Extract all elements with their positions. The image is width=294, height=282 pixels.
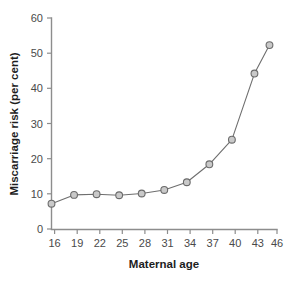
data-point <box>229 136 236 143</box>
y-tick-label: 40 <box>31 82 43 94</box>
x-tick-label: 37 <box>207 237 219 249</box>
x-tick-label: 31 <box>161 237 173 249</box>
x-tick-label: 46 <box>271 237 283 249</box>
y-tick-label: 30 <box>31 118 43 130</box>
data-point <box>93 191 100 198</box>
x-tick-label: 22 <box>94 237 106 249</box>
x-tick-label: 40 <box>229 237 241 249</box>
y-tick-label: 20 <box>31 153 43 165</box>
data-point <box>183 179 190 186</box>
data-point <box>71 191 78 198</box>
miscarriage-risk-line-chart: 60 50 40 30 20 10 0 16 19 22 25 <box>0 0 294 282</box>
x-tick-label: 43 <box>252 237 264 249</box>
x-tick-label: 28 <box>139 237 151 249</box>
x-axis-title: Maternal age <box>129 258 199 270</box>
data-point <box>251 70 258 77</box>
x-tick-label: 25 <box>116 237 128 249</box>
x-tick-label: 16 <box>48 237 60 249</box>
data-point <box>48 200 55 207</box>
data-point <box>161 187 168 194</box>
y-tick-label: 60 <box>31 12 43 24</box>
data-point <box>266 42 273 49</box>
data-point <box>138 190 145 197</box>
y-axis-title: Miscarriage risk (per cent) <box>8 52 20 195</box>
data-point <box>116 192 123 199</box>
y-tick-label: 0 <box>37 223 43 235</box>
x-tick-label: 19 <box>71 237 83 249</box>
y-tick-label: 10 <box>31 188 43 200</box>
x-tick-label: 34 <box>184 237 196 249</box>
data-point <box>206 161 213 168</box>
chart-container: 60 50 40 30 20 10 0 16 19 22 25 <box>0 0 294 282</box>
y-tick-label: 50 <box>31 47 43 59</box>
